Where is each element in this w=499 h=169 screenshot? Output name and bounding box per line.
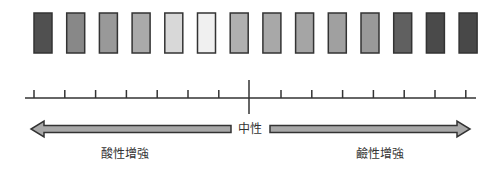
base-increasing-label: 鹼性增強 <box>356 146 404 161</box>
color-swatch-10 <box>328 13 346 53</box>
color-swatch-3 <box>99 13 117 53</box>
color-swatch-12 <box>394 13 412 53</box>
acid-increasing-label: 酸性增強 <box>101 146 149 161</box>
neutral-label: 中性 <box>238 121 262 136</box>
axis-ticks <box>34 90 466 98</box>
color-swatch-9 <box>296 13 314 53</box>
color-swatch-2 <box>67 13 85 53</box>
color-swatch-5 <box>165 13 183 53</box>
base-increasing-arrow <box>270 121 470 137</box>
color-swatch-row <box>34 13 477 53</box>
color-swatch-7 <box>230 13 248 53</box>
color-swatch-13 <box>426 13 444 53</box>
color-swatch-11 <box>361 13 379 53</box>
acid-increasing-arrow <box>31 121 231 137</box>
color-swatch-14 <box>459 13 477 53</box>
color-swatch-1 <box>34 13 52 53</box>
ph-scale-diagram: 中性 酸性增強 鹼性增強 <box>0 0 499 169</box>
ph-scale-axis <box>25 80 476 114</box>
color-swatch-8 <box>263 13 281 53</box>
color-swatch-6 <box>198 13 216 53</box>
color-swatch-4 <box>132 13 150 53</box>
